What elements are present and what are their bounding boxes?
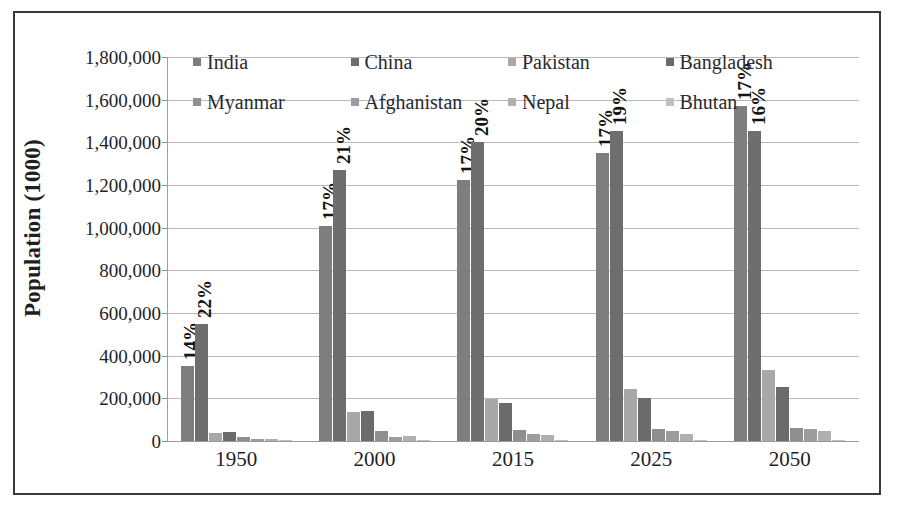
y-axis-tick-label: 200,000 bbox=[53, 389, 161, 408]
bar[interactable] bbox=[237, 437, 250, 441]
bar[interactable] bbox=[485, 399, 498, 441]
bar-group: 17%19% bbox=[584, 57, 720, 441]
bar-group: 17%20% bbox=[445, 57, 581, 441]
bar[interactable] bbox=[541, 435, 554, 441]
bar[interactable] bbox=[223, 432, 236, 441]
y-axis-tick-label: 1,000,000 bbox=[53, 219, 161, 238]
bar[interactable] bbox=[694, 440, 707, 441]
bar[interactable] bbox=[527, 434, 540, 441]
x-axis-tick-label: 1950 bbox=[168, 447, 304, 471]
bar[interactable] bbox=[776, 387, 789, 441]
bar[interactable] bbox=[762, 370, 775, 441]
bar[interactable] bbox=[680, 434, 693, 441]
bar[interactable]: 17% bbox=[734, 106, 747, 441]
bar[interactable]: 17% bbox=[319, 226, 332, 441]
bar-group: 17%21% bbox=[307, 57, 443, 441]
bar[interactable] bbox=[818, 431, 831, 441]
bar[interactable] bbox=[389, 437, 402, 441]
bar[interactable] bbox=[265, 439, 278, 441]
y-axis-title: Population (1000) bbox=[13, 13, 53, 443]
x-axis-tick-labels: 19502000201520252050 bbox=[167, 447, 859, 485]
bar[interactable] bbox=[832, 440, 845, 441]
x-axis-tick-label: 2025 bbox=[584, 447, 720, 471]
y-axis-tick-label: 1,600,000 bbox=[53, 91, 161, 110]
bar[interactable]: 14% bbox=[181, 366, 194, 441]
bar-value-label: 19% bbox=[610, 87, 629, 125]
y-axis-tick-label: 1,400,000 bbox=[53, 133, 161, 152]
bar[interactable]: 17% bbox=[596, 153, 609, 441]
bar[interactable]: 19% bbox=[610, 131, 623, 441]
bar[interactable] bbox=[555, 440, 568, 441]
bar[interactable]: 22% bbox=[195, 324, 208, 441]
bar[interactable] bbox=[361, 411, 374, 441]
bar[interactable] bbox=[513, 430, 526, 441]
x-axis-tick-label: 2000 bbox=[307, 447, 443, 471]
x-axis-tick-label: 2015 bbox=[445, 447, 581, 471]
bar-value-label: 16% bbox=[749, 87, 768, 125]
bar[interactable] bbox=[209, 433, 222, 441]
bar[interactable] bbox=[347, 412, 360, 441]
y-axis-tick-label: 1,200,000 bbox=[53, 176, 161, 195]
bar[interactable]: 16% bbox=[748, 131, 761, 441]
y-axis-tick-label: 600,000 bbox=[53, 304, 161, 323]
bar[interactable]: 20% bbox=[471, 142, 484, 441]
bar-group: 14%22% bbox=[168, 57, 304, 441]
bar[interactable]: 21% bbox=[333, 170, 346, 441]
gridline bbox=[167, 441, 859, 442]
bar[interactable] bbox=[251, 439, 264, 441]
bar[interactable]: 17% bbox=[457, 180, 470, 441]
bar[interactable] bbox=[375, 431, 388, 441]
y-axis-tick-label: 800,000 bbox=[53, 261, 161, 280]
bar[interactable] bbox=[403, 436, 416, 441]
bar[interactable] bbox=[804, 429, 817, 441]
y-axis-tick-label: 1,800,000 bbox=[53, 48, 161, 67]
bar-groups: 14%22%17%21%17%20%17%19%17%16% bbox=[167, 57, 859, 441]
bar-group: 17%16% bbox=[722, 57, 858, 441]
y-axis-tick-labels: 1,800,0001,600,0001,400,0001,200,0001,00… bbox=[53, 57, 161, 441]
bar-value-label: 22% bbox=[195, 280, 214, 318]
y-axis-title-text: Population (1000) bbox=[20, 139, 46, 317]
bar[interactable] bbox=[666, 431, 679, 441]
bar[interactable] bbox=[638, 398, 651, 441]
y-axis-tick-label: 400,000 bbox=[53, 347, 161, 366]
bar[interactable] bbox=[499, 403, 512, 441]
y-axis-tick-label: 0 bbox=[53, 432, 161, 451]
bar[interactable] bbox=[417, 440, 430, 441]
bar[interactable] bbox=[652, 429, 665, 441]
bar[interactable] bbox=[790, 428, 803, 441]
bar[interactable] bbox=[624, 389, 637, 441]
plot-area: 14%22%17%21%17%20%17%19%17%16% bbox=[167, 57, 859, 441]
bar[interactable] bbox=[279, 440, 292, 441]
y-axis-tick bbox=[162, 441, 167, 442]
chart-frame: Population (1000) 1,800,0001,600,0001,40… bbox=[13, 11, 881, 495]
bar-value-label: 21% bbox=[334, 126, 353, 164]
x-axis-tick-label: 2050 bbox=[722, 447, 858, 471]
bar-value-label: 20% bbox=[472, 98, 491, 136]
